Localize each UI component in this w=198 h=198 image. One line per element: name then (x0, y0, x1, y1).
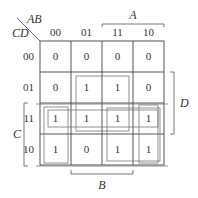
bracket-label-c: C (13, 127, 22, 141)
group-cd-loop (48, 110, 158, 127)
cell: 1 (115, 143, 121, 155)
brackets (24, 24, 174, 174)
cell: 0 (53, 81, 59, 93)
col-header-00: 00 (50, 26, 62, 38)
cell: 1 (53, 143, 59, 155)
cell: 1 (146, 112, 152, 124)
col-header-01: 01 (81, 26, 92, 38)
row-variable-label: CD (12, 26, 29, 40)
cell: 1 (115, 112, 121, 124)
col-header-11: 11 (112, 26, 123, 38)
cell: 0 (84, 50, 90, 62)
cell: 1 (146, 143, 152, 155)
cell: 1 (115, 81, 121, 93)
cell: 0 (84, 143, 90, 155)
cell: 0 (146, 81, 152, 93)
bracket-b (71, 170, 133, 174)
col-header-10: 10 (143, 26, 155, 38)
karnaugh-map: AB CD 00 01 11 10 00 01 11 10 0 0 0 0 0 … (0, 0, 198, 198)
row-header-10: 10 (23, 143, 35, 155)
cell: 1 (53, 112, 59, 124)
bracket-d (170, 72, 174, 134)
bracket-label-b: B (98, 178, 106, 192)
row-header-00: 00 (23, 50, 35, 62)
row-header-11: 11 (23, 112, 34, 124)
bracket-label-a: A (128, 8, 137, 22)
cell: 0 (53, 50, 59, 62)
row-header-01: 01 (23, 81, 34, 93)
cell: 0 (115, 50, 121, 62)
col-variable-label: AB (26, 12, 42, 26)
cell: 0 (146, 50, 152, 62)
cell: 1 (84, 112, 90, 124)
cell: 1 (84, 81, 90, 93)
bracket-label-d: D (179, 96, 189, 110)
